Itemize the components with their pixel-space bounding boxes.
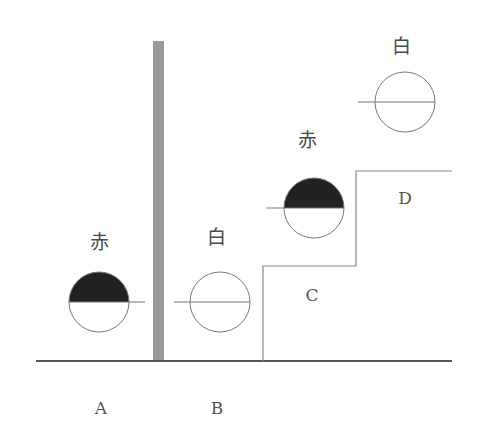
flag-d-white	[358, 72, 435, 132]
region-label-d: D	[398, 188, 412, 208]
flag-label-c: 赤	[298, 125, 317, 152]
flag-a-red	[69, 272, 145, 332]
flag-b-white	[174, 272, 250, 332]
flag-label-d: 白	[392, 31, 411, 58]
flag-c-red	[266, 178, 344, 238]
flag-c-filled-half	[284, 178, 344, 208]
flag-label-a: 赤	[90, 227, 109, 254]
region-label-b: B	[211, 398, 224, 418]
flag-label-b: 白	[207, 222, 226, 249]
region-label-a: A	[95, 398, 107, 418]
region-label-c: C	[305, 285, 318, 305]
flag-a-filled-half	[69, 272, 129, 302]
pole	[153, 41, 164, 361]
diagram-canvas	[0, 0, 482, 430]
